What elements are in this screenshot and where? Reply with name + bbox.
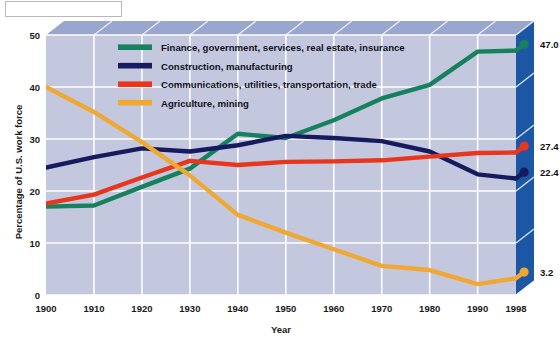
legend-label-4: Agriculture, mining — [161, 98, 249, 109]
x-tick-1990: 1990 — [467, 303, 488, 314]
x-tick-1960: 1960 — [323, 303, 344, 314]
x-tick-1940: 1940 — [227, 303, 248, 314]
y-tick-20: 20 — [29, 186, 40, 197]
legend-swatch-2 — [118, 63, 152, 69]
series-end-label-3: 27.4 — [540, 141, 559, 152]
series-end-marker-4 — [520, 267, 529, 276]
y-tick-10: 10 — [29, 238, 40, 249]
legend-swatch-4 — [118, 100, 152, 106]
legend-swatch-3 — [118, 81, 152, 87]
plot-right-face — [516, 21, 534, 295]
x-tick-1998: 1998 — [505, 303, 526, 314]
series-end-marker-2 — [520, 168, 529, 177]
series-end-label-2: 22.4 — [540, 167, 559, 178]
y-axis-title: Percentage of U.S. work force — [13, 105, 24, 240]
series-end-labels: 47.022.427.43.2 — [540, 39, 559, 278]
work-force-line-chart: 47.022.427.43.2 01020304050 190019101920… — [0, 0, 560, 341]
y-tick-50: 50 — [29, 30, 40, 41]
legend-label-3: Communications, utilities, transportatio… — [161, 79, 377, 90]
x-tick-1950: 1950 — [275, 303, 296, 314]
plot-top-face — [46, 21, 534, 35]
x-tick-1910: 1910 — [83, 303, 104, 314]
x-tick-1920: 1920 — [131, 303, 152, 314]
x-tick-1980: 1980 — [419, 303, 440, 314]
corner-caption-box — [5, 1, 122, 17]
y-tick-30: 30 — [29, 134, 40, 145]
series-end-marker-3 — [520, 142, 529, 151]
x-axis-title: Year — [271, 324, 291, 335]
x-tick-1970: 1970 — [371, 303, 392, 314]
legend-label-1: Finance, government, services, real esta… — [161, 42, 405, 53]
series-end-marker-1 — [520, 40, 529, 49]
series-end-label-1: 47.0 — [540, 39, 559, 50]
series-end-label-4: 3.2 — [540, 267, 553, 278]
legend-label-2: Construction, manufacturing — [161, 61, 293, 72]
y-tick-0: 0 — [35, 290, 40, 301]
x-tick-1900: 1900 — [35, 303, 56, 314]
x-tick-1930: 1930 — [179, 303, 200, 314]
y-axis-tick-labels: 01020304050 — [29, 30, 40, 301]
x-axis-tick-labels: 1900191019201930194019501960197019801990… — [35, 303, 526, 314]
chart-figure: 47.022.427.43.2 01020304050 190019101920… — [0, 0, 560, 341]
y-tick-40: 40 — [29, 82, 40, 93]
legend-swatch-1 — [118, 44, 152, 50]
